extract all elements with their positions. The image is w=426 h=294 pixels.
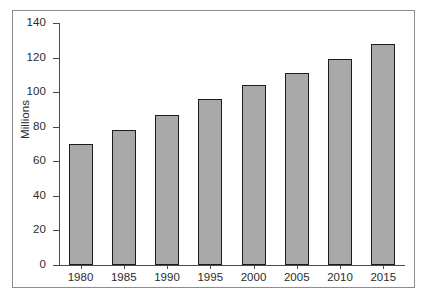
x-axis-tick bbox=[210, 265, 211, 269]
x-axis-tick bbox=[81, 265, 82, 269]
x-axis-tick bbox=[297, 265, 298, 269]
y-axis-tick-label: 140 bbox=[6, 17, 46, 29]
x-axis-tick bbox=[254, 265, 255, 269]
bar bbox=[155, 115, 179, 265]
bar bbox=[328, 59, 352, 265]
bar-chart-figure: Millions 020406080100120140 198019851990… bbox=[12, 10, 415, 288]
y-axis-tick bbox=[53, 127, 60, 128]
y-axis-tick-label: 60 bbox=[6, 155, 46, 167]
y-axis-tick bbox=[53, 161, 60, 162]
bar bbox=[285, 73, 309, 265]
y-axis-tick bbox=[53, 58, 60, 59]
x-axis-line bbox=[59, 265, 405, 266]
x-axis-tick bbox=[340, 265, 341, 269]
y-axis-tick-label: 20 bbox=[6, 224, 46, 236]
x-axis-tick bbox=[383, 265, 384, 269]
bar bbox=[69, 144, 93, 265]
y-axis-tick bbox=[53, 265, 60, 266]
y-axis-tick-label: 80 bbox=[6, 121, 46, 133]
y-axis-tick bbox=[53, 92, 60, 93]
y-axis-title: Millions bbox=[19, 100, 31, 139]
y-axis-tick-label: 120 bbox=[6, 52, 46, 64]
y-axis-tick-label: 0 bbox=[6, 259, 46, 271]
y-axis-tick bbox=[53, 196, 60, 197]
y-axis-tick bbox=[53, 230, 60, 231]
x-axis-tick bbox=[167, 265, 168, 269]
y-axis-tick-label: 40 bbox=[6, 190, 46, 202]
x-axis-tick bbox=[124, 265, 125, 269]
y-axis-tick-label: 100 bbox=[6, 86, 46, 98]
bar bbox=[198, 99, 222, 265]
y-axis-tick bbox=[53, 23, 60, 24]
bar bbox=[371, 44, 395, 265]
bar bbox=[242, 85, 266, 265]
x-axis-tick-label: 2015 bbox=[356, 272, 410, 284]
bar bbox=[112, 130, 136, 265]
